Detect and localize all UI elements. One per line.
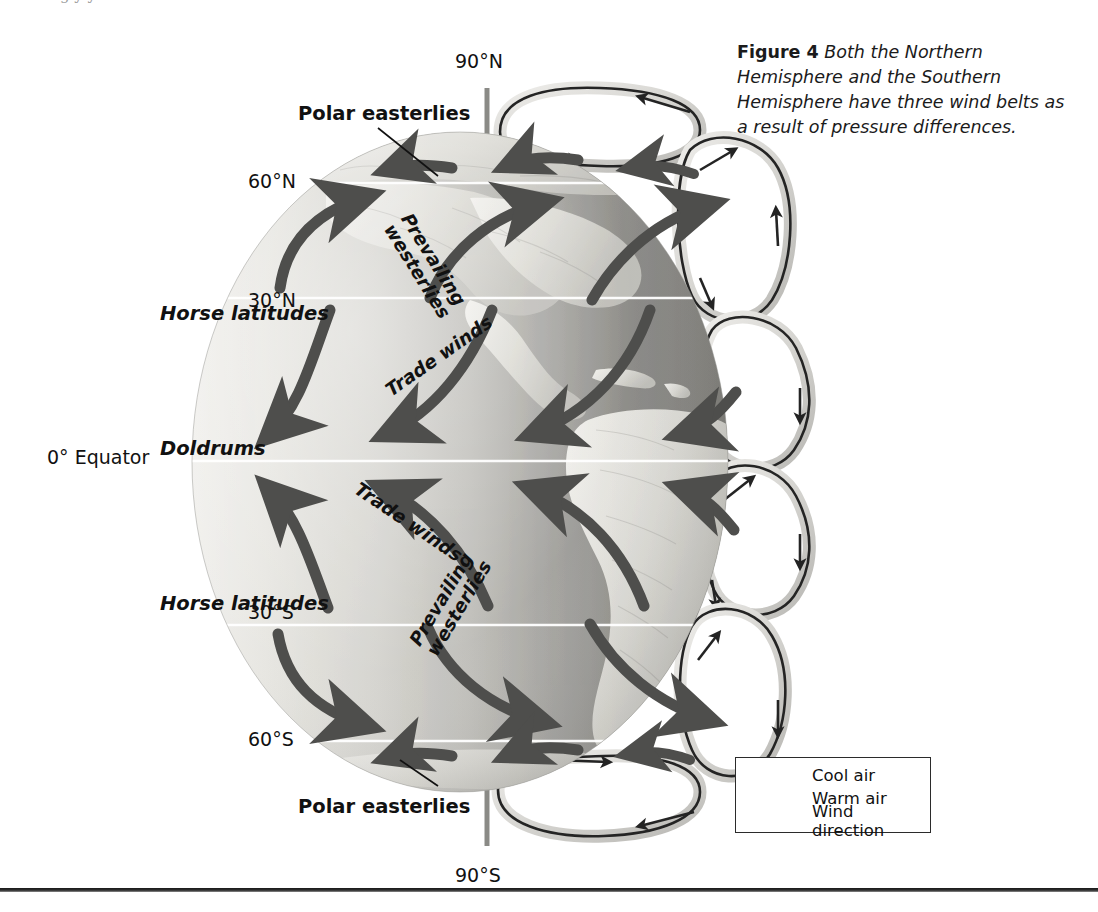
circulation-cell-north-ferrel [678, 138, 790, 321]
wind-belt-diagram: 90°N 60°N 30°N 0° Equator 30°S 60°S 90°S… [0, 0, 1098, 912]
latitude-label-60s: 60°S [248, 728, 294, 750]
legend-box: Cool air Warm air Wind direction [735, 757, 931, 833]
arrow-polar-easterly-n1 [386, 165, 452, 170]
leader-label-polar-easterlies-north: Polar easterlies [298, 102, 470, 125]
belt-label-horse-latitudes-south: Horse latitudes [160, 592, 329, 615]
belt-label-horse-latitudes-north: Horse latitudes [160, 302, 329, 325]
warm-air-arrow-icon [744, 788, 806, 808]
legend-item-wind-direction: Wind direction [744, 810, 930, 832]
cool-air-arrow-icon [744, 765, 806, 785]
page-bottom-rule [0, 888, 1098, 892]
arrow-polar-easterly-s1 [386, 753, 452, 758]
belt-label-doldrums: Doldrums [160, 437, 266, 460]
latitude-label-equator: 0° Equator [47, 446, 149, 468]
latitude-label-90n: 90°N [455, 50, 503, 72]
legend-label-wind-direction: Wind direction [812, 802, 930, 840]
wind-direction-arrow-icon [744, 811, 806, 831]
leader-label-polar-easterlies-south: Polar easterlies [298, 795, 470, 818]
latitude-label-60n: 60°N [248, 170, 296, 192]
legend-label-cool-air: Cool air [812, 766, 875, 785]
arrow-polar-easterly-n3 [630, 166, 694, 174]
legend-item-cool-air: Cool air [744, 764, 875, 786]
figure-page: g y y Figure 4 Both the Northern Hemisph… [0, 0, 1098, 912]
circulation-cell-south-ferrel [680, 609, 785, 776]
latitude-label-90s: 90°S [455, 864, 501, 886]
